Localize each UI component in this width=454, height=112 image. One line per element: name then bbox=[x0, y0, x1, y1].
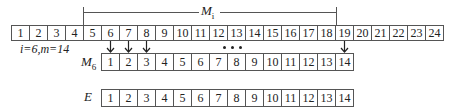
e-cell: 10 bbox=[263, 89, 281, 107]
source-cell: 13 bbox=[227, 25, 245, 41]
source-cell: 7 bbox=[119, 25, 137, 41]
m6-cell: 2 bbox=[119, 53, 137, 71]
m6-cell: 9 bbox=[245, 53, 263, 71]
source-cell: 19 bbox=[335, 25, 353, 41]
down-arrow-icon bbox=[142, 41, 151, 53]
ellipsis-dot bbox=[223, 46, 226, 49]
m6-cell: 5 bbox=[173, 53, 191, 71]
source-cell: 6 bbox=[101, 25, 119, 41]
e-cell: 4 bbox=[155, 89, 173, 107]
source-cell: 8 bbox=[137, 25, 155, 41]
bracket-line-right bbox=[220, 12, 337, 13]
m6-cell: 1 bbox=[101, 53, 119, 71]
ellipsis-dot bbox=[231, 46, 234, 49]
m6-cell: 7 bbox=[209, 53, 227, 71]
source-cell: 23 bbox=[407, 25, 425, 41]
bracket-left-tick bbox=[83, 7, 84, 25]
e-cell: 13 bbox=[317, 89, 335, 107]
source-cell: 22 bbox=[389, 25, 407, 41]
source-cell: 17 bbox=[299, 25, 317, 41]
e-cell: 14 bbox=[335, 89, 354, 107]
m6-label: M6 bbox=[81, 54, 96, 72]
e-cell: 3 bbox=[137, 89, 155, 107]
e-cell: 8 bbox=[227, 89, 245, 107]
source-cell: 2 bbox=[29, 25, 47, 41]
m6-cell: 6 bbox=[191, 53, 209, 71]
source-cell: 20 bbox=[353, 25, 371, 41]
source-cell: 1 bbox=[11, 25, 29, 41]
e-array-row: 1234567891011121314 bbox=[101, 89, 354, 105]
e-label: E bbox=[84, 89, 92, 105]
e-cell: 12 bbox=[299, 89, 317, 107]
down-arrow-icon bbox=[124, 41, 133, 53]
source-cell: 21 bbox=[371, 25, 389, 41]
m6-cell: 10 bbox=[263, 53, 281, 71]
bracket-right-tick bbox=[336, 7, 337, 25]
source-cell: 14 bbox=[245, 25, 263, 41]
e-cell: 5 bbox=[173, 89, 191, 107]
source-cell: 11 bbox=[191, 25, 209, 41]
m6-cell: 8 bbox=[227, 53, 245, 71]
source-cell: 3 bbox=[47, 25, 65, 41]
down-arrow-icon bbox=[106, 41, 115, 53]
m6-cell: 14 bbox=[335, 53, 354, 71]
down-arrow-icon bbox=[340, 41, 349, 53]
e-cell: 1 bbox=[101, 89, 119, 107]
m6-cell: 11 bbox=[281, 53, 299, 71]
m6-array-row: 1234567891011121314 bbox=[101, 53, 354, 69]
m6-cell: 4 bbox=[155, 53, 173, 71]
bracket-label: Mi bbox=[201, 3, 214, 21]
source-cell: 24 bbox=[425, 25, 444, 41]
source-cell: 4 bbox=[65, 25, 83, 41]
e-cell: 2 bbox=[119, 89, 137, 107]
source-cell: 5 bbox=[83, 25, 101, 41]
ellipsis-dot bbox=[239, 46, 242, 49]
m6-cell: 13 bbox=[317, 53, 335, 71]
e-cell: 6 bbox=[191, 89, 209, 107]
e-cell: 11 bbox=[281, 89, 299, 107]
source-cell: 16 bbox=[281, 25, 299, 41]
source-array-row: 123456789101112131415161718192021222324 bbox=[11, 25, 444, 39]
source-cell: 12 bbox=[209, 25, 227, 41]
m6-cell: 12 bbox=[299, 53, 317, 71]
e-cell: 9 bbox=[245, 89, 263, 107]
e-cell: 7 bbox=[209, 89, 227, 107]
m6-cell: 3 bbox=[137, 53, 155, 71]
source-cell: 18 bbox=[317, 25, 335, 41]
source-cell: 9 bbox=[155, 25, 173, 41]
bracket-line-left bbox=[83, 12, 199, 13]
source-cell: 15 bbox=[263, 25, 281, 41]
source-cell: 10 bbox=[173, 25, 191, 41]
params-label: i=6,m=14 bbox=[20, 42, 69, 57]
